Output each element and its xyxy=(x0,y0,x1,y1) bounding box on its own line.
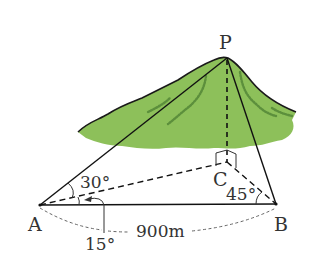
label-P: P xyxy=(219,33,232,52)
distance-arc-mid xyxy=(108,231,128,232)
angle-arc-CBA xyxy=(256,192,262,204)
line-AB xyxy=(40,204,276,205)
point-B xyxy=(274,202,277,205)
diagram: P A B C 30° 15° 45° 900m xyxy=(0,0,312,268)
angle-arc-PAC xyxy=(68,183,73,198)
angle-label-15: 15° xyxy=(85,236,115,253)
distance-label: 900m xyxy=(136,223,185,240)
label-B: B xyxy=(274,215,288,234)
arrowhead xyxy=(84,196,92,202)
angle-pointer-15 xyxy=(88,198,104,233)
distance-arc xyxy=(40,208,102,230)
label-A: A xyxy=(28,215,42,234)
angle-label-45: 45° xyxy=(226,186,256,203)
mountain xyxy=(78,57,296,148)
right-angle-marks xyxy=(216,150,236,168)
distance-arc-right xyxy=(192,208,276,231)
angle-arc-CAB xyxy=(78,197,79,205)
angle-label-30: 30° xyxy=(80,174,110,191)
point-A xyxy=(38,203,41,206)
